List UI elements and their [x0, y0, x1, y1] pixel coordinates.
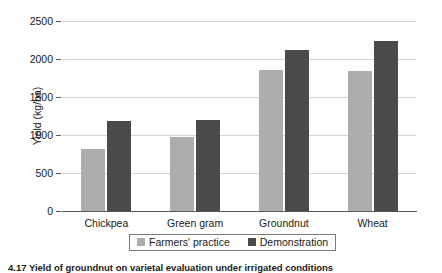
legend-entry-demonstration: Demonstration: [248, 237, 328, 248]
bar: [107, 121, 131, 211]
bar: [170, 137, 194, 211]
legend-swatch-icon-farmers-practice: [137, 238, 145, 246]
bar: [348, 71, 372, 211]
gridline: [62, 211, 417, 212]
y-tick-mark: [56, 59, 61, 60]
y-tick-mark: [56, 97, 61, 98]
y-tick-mark: [56, 211, 61, 212]
x-axis-label: Green gram: [151, 214, 240, 232]
bar: [374, 41, 398, 211]
y-tick-label: 500: [35, 168, 53, 179]
y-tick-label: 2500: [30, 16, 53, 27]
legend-label-farmers-practice: Farmers' practice: [149, 237, 230, 248]
y-tick-mark: [56, 173, 61, 174]
legend-swatch-icon-demonstration: [248, 238, 256, 246]
y-tick-label: 1000: [30, 130, 53, 141]
x-axis-labels: ChickpeaGreen gramGroundnutWheat: [62, 214, 417, 232]
bar: [81, 149, 105, 211]
bar-group: [151, 21, 240, 211]
x-axis-label: Wheat: [328, 214, 417, 232]
x-axis-label: Groundnut: [240, 214, 329, 232]
y-tick-label: 0: [47, 206, 53, 217]
y-tick-label: 2000: [30, 54, 53, 65]
bar: [196, 120, 220, 211]
legend-label-demonstration: Demonstration: [260, 237, 328, 248]
bar-group: [240, 21, 329, 211]
bar-group: [328, 21, 417, 211]
bar: [259, 70, 283, 211]
bar-groups: [62, 21, 417, 211]
right-spine: [416, 21, 417, 211]
legend-entry-farmers-practice: Farmers' practice: [137, 237, 230, 248]
bar: [285, 50, 309, 211]
y-tick-mark: [56, 135, 61, 136]
chart-legend: Farmers' practice Demonstration: [129, 234, 336, 251]
y-axis-title-wrap: Yield (kg/ha): [0, 21, 18, 211]
y-tick-mark: [56, 21, 61, 22]
figure-caption: 4.17 Yield of groundnut on varietal eval…: [8, 262, 438, 273]
plot-area: 05001000150020002500: [62, 21, 417, 211]
bar-group: [62, 21, 151, 211]
x-axis-label: Chickpea: [62, 214, 151, 232]
y-tick-label: 1500: [30, 92, 53, 103]
